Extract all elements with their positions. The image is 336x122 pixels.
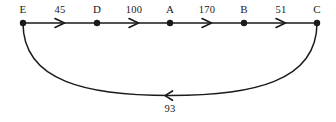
graph-diagram: E D A B C 45 100 170 51 93 xyxy=(0,0,336,122)
edge-weight-c-e: 93 xyxy=(165,103,176,114)
node-label-c: C xyxy=(313,4,321,15)
node-label-e: E xyxy=(20,4,27,15)
edge-weight-d-a: 100 xyxy=(126,4,142,15)
edge-weight-a-b: 170 xyxy=(199,4,215,15)
node-dot-c xyxy=(314,20,320,26)
node-dot-d xyxy=(94,20,100,26)
node-dot-e xyxy=(20,20,26,26)
edge-arc-c-to-e xyxy=(23,23,317,96)
node-dot-b xyxy=(241,20,247,26)
edge-weight-b-c: 51 xyxy=(276,4,287,15)
node-label-b: B xyxy=(240,4,248,15)
node-dot-a xyxy=(167,20,173,26)
node-label-a: A xyxy=(166,4,174,15)
node-label-d: D xyxy=(93,4,101,15)
edge-weight-e-d: 45 xyxy=(55,4,66,15)
